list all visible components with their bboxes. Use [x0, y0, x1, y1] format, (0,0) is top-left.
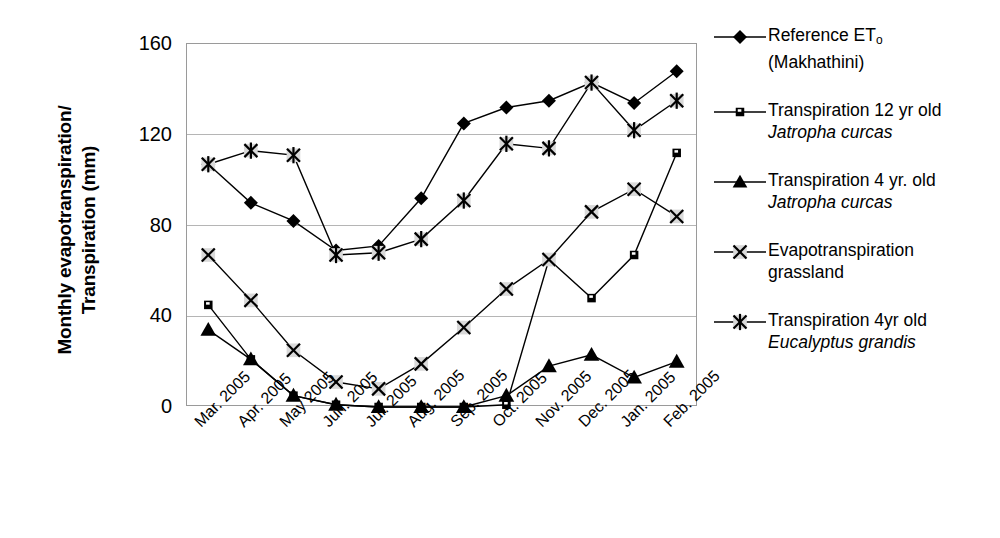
legend-label-line1: Transpiration 4 yr. old: [768, 169, 936, 191]
legend-transpiration-4yr-jatropha[interactable]: Transpiration 4 yr. oldJatropha curcas: [712, 169, 998, 213]
square-marker: [712, 101, 768, 123]
legend-transpiration-12yr-jatropha[interactable]: Transpiration 12 yr oldJatropha curcas: [712, 99, 998, 143]
cross-marker: [712, 241, 768, 263]
legend-label: Transpiration 4yr oldEucalyptus grandis: [768, 309, 927, 353]
legend-label: Transpiration 12 yr oldJatropha curcas: [768, 99, 941, 143]
legend-label-line2: Jatropha curcas: [768, 121, 941, 143]
legend-label-line2: Eucalyptus grandis: [768, 331, 927, 353]
legend-label-line2: Jatropha curcas: [768, 191, 936, 213]
legend-label-line1: Transpiration 4yr old: [768, 309, 927, 331]
legend-evapotranspiration-grassland[interactable]: Evapotranspirationgrassland: [712, 239, 998, 283]
legend-label: Evapotranspirationgrassland: [768, 239, 914, 283]
diamond-marker: [712, 26, 768, 48]
triangle-marker: [712, 171, 768, 193]
asterisk-marker: [712, 311, 768, 333]
legend-label-subscript: o: [876, 33, 883, 47]
legend-label-line2: grassland: [768, 261, 914, 283]
chart-legend: Reference ETo(Makhathini)Transpiration 1…: [712, 24, 998, 379]
legend-label-line1: Reference ETo: [768, 24, 883, 51]
legend-label: Transpiration 4 yr. oldJatropha curcas: [768, 169, 936, 213]
legend-label-line1: Evapotranspiration: [768, 239, 914, 261]
legend-transpiration-4yr-eucalyptus[interactable]: Transpiration 4yr oldEucalyptus grandis: [712, 309, 998, 353]
legend-label-line1: Transpiration 12 yr old: [768, 99, 941, 121]
chart-figure: Monthly evapotranspiration/ Transpiratio…: [0, 0, 1000, 538]
legend-label-line2: (Makhathini): [768, 51, 883, 73]
legend-reference-et[interactable]: Reference ETo(Makhathini): [712, 24, 998, 73]
legend-label: Reference ETo(Makhathini): [768, 24, 883, 73]
